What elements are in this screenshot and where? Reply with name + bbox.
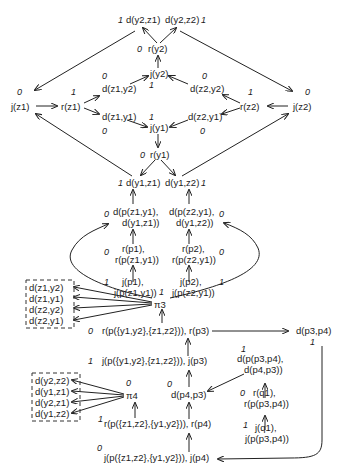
node-j-p2-line1[interactable]: j(p2), <box>179 276 202 287</box>
value-d-p-z1-y1: 0 <box>104 209 109 219</box>
value-r-z2: 1 <box>248 87 253 97</box>
value-d-y1-z2: 1 <box>201 178 206 188</box>
dependency-graph: 1 d(y2,z1) d(y2,z2) 1 0 r(y2) j(y2) 1 0 … <box>0 0 345 472</box>
node-d-y1-z2[interactable]: d(y1,z2) <box>165 177 199 188</box>
value-j-p4: 0 <box>97 443 102 453</box>
value-j-q1: 1 <box>243 420 248 430</box>
value-j-y2: 1 <box>149 80 154 90</box>
value-j-p3: 1 <box>88 356 93 366</box>
box2-item[interactable]: d(y1,z1) <box>35 386 69 397</box>
value-j-z2: 0 <box>305 87 310 97</box>
value-d-z1-y1: 0 <box>102 126 107 136</box>
box2-item[interactable]: d(y2,z1) <box>35 397 69 408</box>
node-d-p-z1-y1-line2[interactable]: d(y1,z1)) <box>122 217 159 228</box>
diagram-canvas: 1 d(y2,z1) d(y2,z2) 1 0 r(y2) j(y2) 1 0 … <box>0 0 345 472</box>
node-j-p3[interactable]: j(p({y1,y2},{z1,z2})), j(p3) <box>101 355 207 366</box>
value-r-p3: 0 <box>88 326 93 336</box>
value-j-p1: 1 <box>104 277 109 287</box>
value-j-p2: 1 <box>219 277 224 287</box>
node-r-z1[interactable]: r(z1) <box>61 101 81 112</box>
value-r-y1: 0 <box>140 150 145 160</box>
value-d-z2-y2: 0 <box>202 71 207 81</box>
node-d-z1-y1[interactable]: d(z1,y1) <box>102 111 136 122</box>
value-r-p4: 1 <box>98 414 103 424</box>
box1-item[interactable]: d(z2,y1) <box>29 315 63 326</box>
value-d-y1-z1: 1 <box>118 178 123 188</box>
value-d-p3-p4: 1 <box>310 337 315 347</box>
value-d-y2-z1: 1 <box>118 15 123 25</box>
node-r-p1-line1[interactable]: r(p1), <box>122 243 145 254</box>
value-j-z1: 0 <box>17 87 22 97</box>
node-j-p2-line2[interactable]: j(p(z2,y1)) <box>171 287 215 298</box>
node-r-q1-line1[interactable]: r(q1), <box>253 387 276 398</box>
node-d-z1-y2[interactable]: d(z1,y2) <box>102 83 136 94</box>
box1-item[interactable]: d(z1,y1) <box>29 293 63 304</box>
node-j-p1-line2[interactable]: j(p(z1,y1)) <box>113 287 157 298</box>
node-r-p2-line1[interactable]: r(p2), <box>182 243 205 254</box>
value-r-y2: 0 <box>137 44 142 54</box>
node-j-q1-line1[interactable]: j(q1), <box>254 422 277 433</box>
node-d-z2-y1[interactable]: d(z2,y1) <box>188 111 222 122</box>
node-r-p4[interactable]: r(p({z1,z2},{y1,y2})), r(p4) <box>104 418 211 429</box>
node-d-p4-p3[interactable]: d(p4,p3) <box>171 389 206 400</box>
node-d-y2-z1[interactable]: d(y2,z1) <box>126 14 160 25</box>
node-d-y1-z1[interactable]: d(y1,z1) <box>126 177 160 188</box>
node-r-y2[interactable]: r(y2) <box>148 43 168 54</box>
node-d-p-z2-y1-line2[interactable]: d(y1,z2)) <box>176 217 213 228</box>
box1-item[interactable]: d(z2,y2) <box>29 304 63 315</box>
node-j-y1[interactable]: j(y1) <box>149 122 168 133</box>
box2-item[interactable]: d(y1,z2) <box>35 408 69 419</box>
node-r-p1-line2[interactable]: r(p(z1,y1)) <box>115 254 159 265</box>
value-r-p1: 0 <box>104 247 109 257</box>
value-r-p2: 0 <box>219 247 224 257</box>
box2-item[interactable]: d(y2,z2) <box>35 375 69 386</box>
node-j-z2[interactable]: j(z2) <box>292 101 311 112</box>
value-d-p-z2-y1: 0 <box>219 209 224 219</box>
node-pi3[interactable]: π3 <box>154 299 166 310</box>
node-d-p-p3-p4-line1[interactable]: d(p(p3,p4), <box>237 353 283 364</box>
node-r-q1-line2[interactable]: r(p(p3,p4)) <box>244 398 289 409</box>
value-d-p4-p3: 0 <box>167 379 172 389</box>
value-d-z1-y2: 0 <box>102 71 107 81</box>
value-d-z2-y1: 0 <box>200 126 205 136</box>
node-pi4[interactable]: π4 <box>126 390 138 401</box>
node-d-p-z2-y1-line1[interactable]: d(p(z2,y1), <box>169 206 214 217</box>
node-j-z1[interactable]: j(z1) <box>10 101 29 112</box>
value-j-y1: 1 <box>149 112 154 122</box>
node-j-y2[interactable]: j(y2) <box>149 68 168 79</box>
value-r-z1: 1 <box>71 87 76 97</box>
value-pi4: 0 <box>126 378 131 388</box>
node-r-y1[interactable]: r(y1) <box>150 149 170 160</box>
value-r-q1: 0 <box>240 388 245 398</box>
node-d-p-z1-y1-line1[interactable]: d(p(z1,y1), <box>113 206 158 217</box>
node-r-p3[interactable]: r(p({y1,y2},{z1,z2})), r(p3) <box>102 325 209 336</box>
node-r-p2-line2[interactable]: r(p(z2,y1)) <box>172 254 216 265</box>
node-j-p1-line1[interactable]: j(p1), <box>121 276 144 287</box>
node-d-z2-y2[interactable]: d(z2,y2) <box>190 83 224 94</box>
value-d-y2-z2: 1 <box>201 15 206 25</box>
node-d-p3-p4[interactable]: d(p3,p4) <box>296 325 331 336</box>
node-d-p-p3-p4-line2[interactable]: d(p4,p3)) <box>244 364 283 375</box>
node-j-p4[interactable]: j(p({z1,z2},{y1,y2})), j(p4) <box>103 452 209 463</box>
node-d-y2-z2[interactable]: d(y2,z2) <box>165 14 199 25</box>
value-pi3: 1 <box>159 287 164 297</box>
node-r-z2[interactable]: r(z2) <box>240 101 260 112</box>
node-j-q1-line2[interactable]: j(p(p3,p4)) <box>244 433 289 444</box>
box1-item[interactable]: d(z1,y2) <box>29 282 63 293</box>
